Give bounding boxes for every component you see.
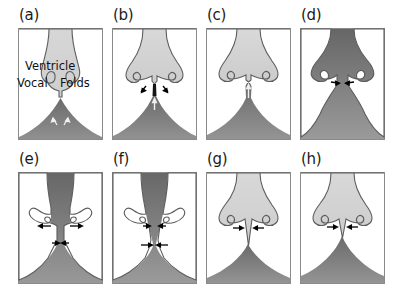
panel-label-a: (a): [19, 8, 39, 23]
panel-label-h: (h): [301, 152, 321, 167]
panel-g-diagram: [206, 172, 291, 284]
panel-label-e: (e): [19, 152, 39, 167]
panel-e: [18, 172, 103, 284]
vocal-fold-cycle-figure: Ventricle Vocal Folds (a): [0, 0, 398, 296]
panel-c-diagram: [206, 28, 291, 140]
panel-label-d: (d): [301, 8, 321, 23]
panel-d: [300, 28, 385, 140]
panel-d-diagram: [300, 28, 385, 140]
panel-a: Ventricle Vocal Folds: [18, 28, 103, 140]
folds-label: Folds: [60, 76, 90, 90]
vocal-label: Vocal: [17, 76, 48, 90]
panel-label-c: (c): [207, 8, 226, 23]
panel-f: [112, 172, 197, 284]
panel-c: [206, 28, 291, 140]
panel-label-g: (g): [207, 152, 227, 167]
panel-label-f: (f): [113, 152, 129, 167]
panel-b-glottal-closure: [153, 84, 157, 96]
panel-h: [300, 172, 385, 284]
panel-b: [112, 28, 197, 140]
panel-h-diagram: [300, 172, 385, 284]
panel-label-b: (b): [113, 8, 133, 23]
panel-b-diagram: [112, 28, 197, 140]
ventricle-label: Ventricle: [25, 59, 75, 73]
panel-f-diagram: [112, 172, 197, 284]
panel-e-diagram: [18, 172, 103, 284]
panel-g: [206, 172, 291, 284]
